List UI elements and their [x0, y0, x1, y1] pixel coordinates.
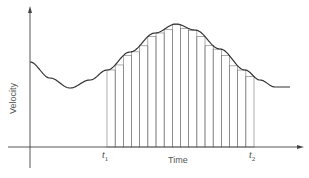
riemann-rectangles	[107, 25, 254, 147]
x-axis-arrow-icon	[297, 145, 304, 149]
x-axis-label: Time	[168, 155, 188, 165]
velocity-time-diagram	[0, 0, 309, 178]
y-axis-arrow-icon	[28, 6, 32, 13]
velocity-curve	[30, 24, 290, 88]
t1-mark: t1	[102, 149, 108, 163]
t2-mark: t2	[249, 149, 255, 163]
